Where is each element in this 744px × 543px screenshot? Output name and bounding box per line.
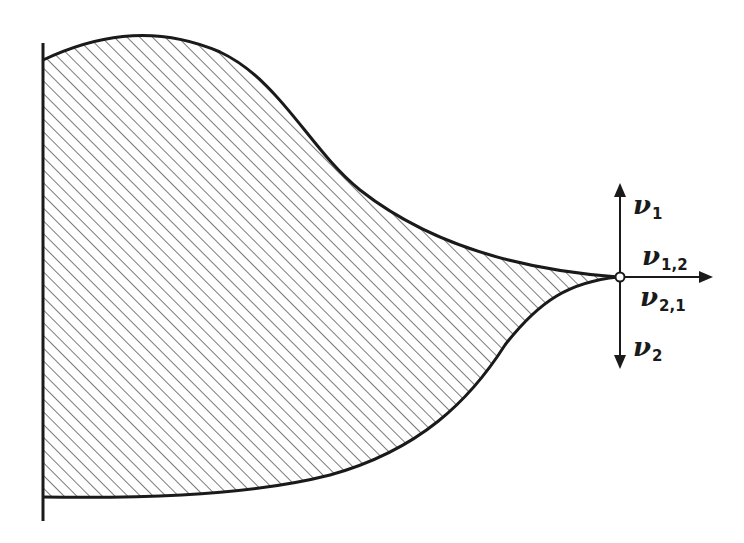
nu12-symbol: ν — [642, 241, 660, 271]
arrow-up-head — [614, 183, 626, 197]
arrow-down-head — [614, 355, 626, 369]
nu21-subscript: 2,1 — [659, 297, 686, 315]
hatched-region-diagram — [0, 0, 744, 543]
convergence-node — [616, 273, 625, 282]
label-nu12: ν1,2 — [642, 243, 688, 269]
label-nu1: ν1 — [633, 192, 662, 218]
nu1-subscript: 1 — [652, 205, 662, 223]
label-nu21: ν2,1 — [640, 284, 686, 310]
nu1-symbol: ν — [633, 190, 651, 220]
nu21-symbol: ν — [640, 282, 658, 312]
nu12-subscript: 1,2 — [661, 256, 688, 274]
arrow-right-head — [699, 271, 713, 283]
nu2-subscript: 2 — [652, 347, 662, 365]
nu2-symbol: ν — [633, 332, 651, 362]
label-nu2: ν2 — [633, 334, 662, 360]
